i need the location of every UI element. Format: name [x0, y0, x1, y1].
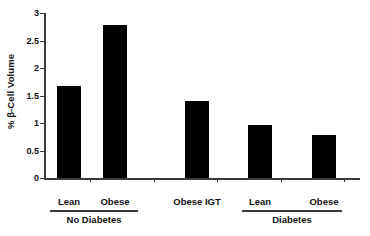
y-tick-label-4: 2 — [34, 63, 39, 73]
x-axis-line — [44, 178, 360, 180]
category-label-obese-no-diabetes: Obese — [100, 196, 129, 207]
y-tick-mark-0 — [40, 178, 44, 179]
x-tick-mark-0 — [90, 178, 91, 182]
y-tick-label-2: 1 — [34, 118, 39, 128]
y-axis-title-text: % β-Cell Volume — [6, 53, 17, 128]
y-axis-title: % β-Cell Volume — [0, 0, 22, 182]
bar-chart-figure: % β-Cell Volume 0 0.5 1 1.5 2 2.5 — [0, 0, 370, 236]
group-label-diabetes: Diabetes — [272, 214, 312, 225]
group-rule-no-diabetes — [50, 210, 138, 212]
category-label-lean-no-diabetes: Lean — [58, 196, 80, 207]
x-tick-mark-1 — [154, 178, 155, 182]
bar-obese-igt — [185, 101, 209, 178]
y-tick-label-5: 2.5 — [26, 36, 39, 46]
y-tick-mark-5 — [40, 41, 44, 42]
bar-obese-no-diabetes — [103, 25, 127, 178]
y-tick-mark-1 — [40, 151, 44, 152]
y-tick-label-1: 0.5 — [26, 146, 39, 156]
x-tick-mark-3 — [281, 178, 282, 182]
y-tick-mark-2 — [40, 123, 44, 124]
x-tick-mark-4 — [344, 178, 345, 182]
x-tick-mark-2 — [217, 178, 218, 182]
category-label-lean-diabetes: Lean — [249, 196, 271, 207]
y-tick-mark-4 — [40, 68, 44, 69]
y-tick-mark-3 — [40, 96, 44, 97]
bar-obese-diabetes — [312, 135, 336, 178]
group-rule-diabetes — [242, 210, 342, 212]
y-axis-line — [44, 13, 46, 178]
plot-area: 0 0.5 1 1.5 2 2.5 3 — [44, 13, 360, 178]
y-tick-label-6: 3 — [34, 8, 39, 18]
bar-lean-no-diabetes — [57, 86, 81, 178]
y-tick-label-3: 1.5 — [26, 91, 39, 101]
category-label-obese-igt: Obese IGT — [173, 196, 221, 207]
category-label-obese-diabetes: Obese — [309, 196, 338, 207]
bar-lean-diabetes — [248, 125, 272, 178]
group-label-no-diabetes: No Diabetes — [67, 214, 122, 225]
y-tick-label-0: 0 — [34, 173, 39, 183]
y-tick-mark-6 — [40, 13, 44, 14]
